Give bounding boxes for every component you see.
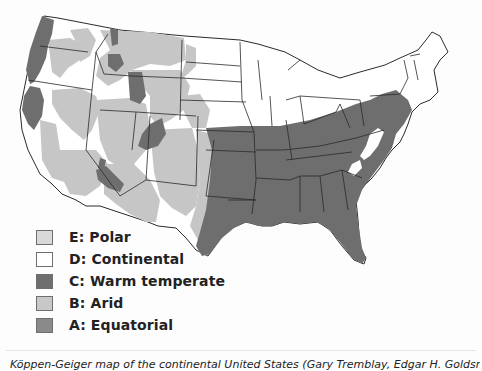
legend-label: C: Warm temperate: [69, 273, 225, 289]
legend-item-warm-temperate: C: Warm temperate: [36, 270, 225, 292]
warm-temperate-swatch: [36, 274, 53, 289]
legend-label: A: Equatorial: [69, 317, 173, 333]
legend-label: B: Arid: [69, 295, 123, 311]
legend-item-equatorial: A: Equatorial: [36, 314, 225, 336]
legend-item-polar: E: Polar: [36, 226, 225, 248]
legend-label: D: Continental: [69, 251, 184, 267]
map-legend: E: Polar D: Continental C: Warm temperat…: [36, 226, 225, 336]
figure-frame: E: Polar D: Continental C: Warm temperat…: [0, 0, 482, 371]
polar-swatch: [36, 230, 53, 245]
equatorial-swatch: [36, 318, 53, 333]
legend-item-continental: D: Continental: [36, 248, 225, 270]
legend-item-arid: B: Arid: [36, 292, 225, 314]
figure-caption: Köppen-Geiger map of the continental Uni…: [10, 358, 480, 371]
legend-label: E: Polar: [69, 229, 131, 245]
caption-divider: [6, 350, 476, 351]
arid-swatch: [36, 296, 53, 311]
continental-swatch: [36, 252, 53, 267]
